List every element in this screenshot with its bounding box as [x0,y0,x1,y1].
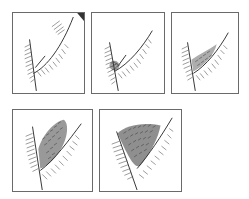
stage-5-panel [99,109,182,192]
stage-1-panel [12,12,85,94]
stage-2-panel [91,12,165,94]
stage-1-illustration [13,13,84,93]
stage-5-illustration [100,110,181,191]
stage-3-illustration [172,13,238,93]
stage-4-illustration [13,110,92,191]
stage-2-illustration [92,13,164,93]
stage-3-panel [171,12,239,94]
stage-4-panel [12,109,93,192]
